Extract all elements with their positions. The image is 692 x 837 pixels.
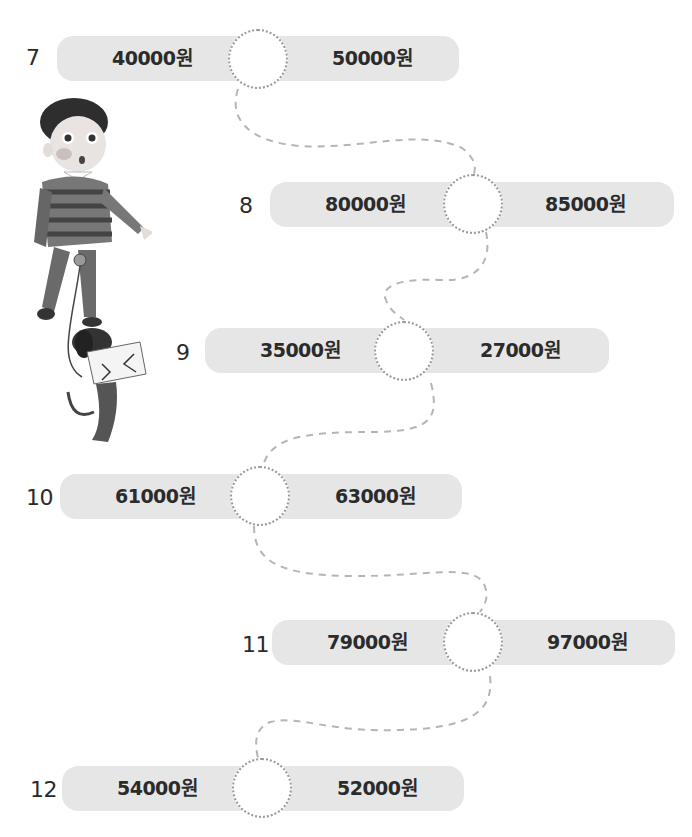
problem-number: 10: [26, 485, 53, 510]
answer-circle[interactable]: [443, 174, 503, 234]
answer-circle[interactable]: [230, 466, 290, 526]
left-amount: 80000원: [290, 182, 440, 227]
answer-circle[interactable]: [443, 612, 503, 672]
answer-circle[interactable]: [228, 29, 288, 89]
problem-number: 7: [26, 45, 40, 70]
problem-number: 9: [176, 340, 190, 365]
left-amount: 79000원: [292, 620, 442, 665]
left-amount: 35000원: [225, 328, 375, 373]
left-amount: 61000원: [80, 474, 230, 519]
right-amount: 50000원: [297, 36, 447, 81]
right-amount: 85000원: [510, 182, 660, 227]
problem-number: 11: [242, 632, 269, 657]
right-amount: 97000원: [512, 620, 662, 665]
left-amount: 40000원: [77, 36, 227, 81]
problem-number: 8: [239, 193, 253, 218]
right-amount: 63000원: [300, 474, 450, 519]
right-amount: 52000원: [302, 766, 452, 811]
answer-circle[interactable]: [374, 321, 434, 381]
left-amount: 54000원: [82, 766, 232, 811]
problem-number: 12: [30, 777, 57, 802]
boy-and-dog-illustration: [12, 92, 152, 452]
right-amount: 27000원: [445, 328, 595, 373]
answer-circle[interactable]: [232, 758, 292, 818]
